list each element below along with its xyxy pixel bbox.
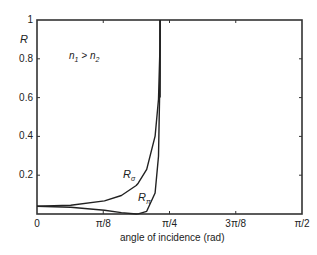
- n2-sub: 2: [95, 56, 99, 63]
- r-pi-sub: π: [146, 198, 151, 205]
- x-tick-label: π/2: [294, 218, 309, 229]
- r-pi-main: R: [138, 191, 146, 203]
- x-tick-label: 3π/8: [225, 218, 246, 229]
- curve-R_sigma: [37, 20, 160, 206]
- y-tick-label: 0.8: [11, 53, 33, 64]
- y-tick-label: 0.4: [11, 130, 33, 141]
- y-tick-label: 1: [11, 14, 33, 25]
- annotation-n1-gt-n2: n1 > n2: [69, 50, 99, 63]
- r-sigma-sub: σ: [131, 175, 135, 182]
- x-tick-label: 0: [34, 218, 40, 229]
- x-axis-label: angle of incidence (rad): [120, 232, 225, 243]
- plot-area: [0, 0, 317, 255]
- y-tick-label: 0.6: [11, 92, 33, 103]
- x-tick-label: π/8: [96, 218, 111, 229]
- y-axis-label: R: [20, 33, 28, 45]
- x-tick-label: π/4: [162, 218, 177, 229]
- gt-text: >: [78, 50, 89, 61]
- r-sigma-main: R: [123, 168, 131, 180]
- y-tick-label: 0.2: [11, 169, 33, 180]
- r-sigma-label: Rσ: [123, 168, 135, 182]
- r-pi-label: Rπ: [138, 191, 151, 205]
